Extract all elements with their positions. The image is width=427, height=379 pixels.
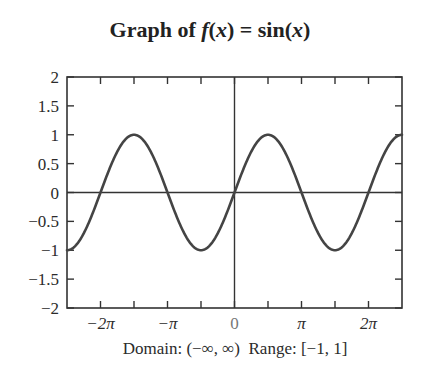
- y-tick-label: 1: [51, 126, 60, 145]
- x-tick-label: −2π: [86, 314, 115, 333]
- y-tick-labels: 21.510.50−0.5−1−1.5−2: [28, 68, 59, 318]
- x-tick-label: 0: [230, 314, 239, 333]
- x-tick-label: −π: [158, 314, 178, 333]
- y-tick-label: 1.5: [38, 97, 59, 116]
- y-tick-label: 0.5: [38, 155, 59, 174]
- y-tick-label: 2: [51, 68, 60, 87]
- y-tick-label: −1: [41, 241, 59, 260]
- y-tick-label: −2: [41, 299, 59, 318]
- y-tick-label: −1.5: [28, 270, 59, 289]
- y-tick-label: 0: [51, 184, 60, 203]
- y-tick-label: −0.5: [28, 212, 59, 231]
- domain-range-caption: Domain: (−∞, ∞) Range: [−1, 1]: [0, 339, 427, 359]
- x-tick-labels: −2π−π0π2π: [86, 314, 377, 333]
- plot-area: 21.510.50−0.5−1−1.5−2 −2π−π0π2π: [0, 0, 427, 379]
- x-tick-label: π: [297, 314, 306, 333]
- x-tick-label: 2π: [360, 314, 378, 333]
